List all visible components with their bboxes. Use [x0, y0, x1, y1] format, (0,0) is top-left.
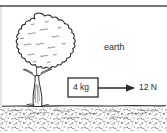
block-mass-label: 4 kg [73, 83, 89, 92]
physics-diagram-figure: earth 4 kg 12 N [0, 0, 167, 133]
tree-foliage [16, 13, 75, 68]
diagram-canvas [0, 0, 167, 133]
ground-surface-line [2, 106, 166, 107]
earth-label: earth [104, 43, 125, 52]
force-magnitude-label: 12 N [139, 83, 157, 92]
tree [16, 13, 75, 106]
ground [0, 106, 167, 131]
tree-trunk [27, 75, 49, 106]
